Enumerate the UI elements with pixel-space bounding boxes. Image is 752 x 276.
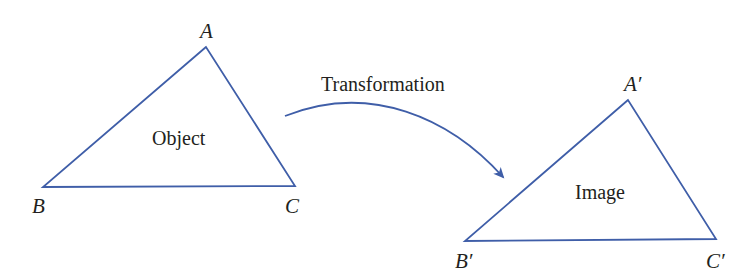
image-label: Image — [575, 181, 625, 204]
transformation-arrow — [285, 103, 503, 177]
image-vertex-a-prime: A′ — [622, 72, 642, 96]
object-vertex-c: C — [285, 194, 300, 218]
image-triangle — [465, 100, 716, 241]
image-vertex-b-prime: B′ — [455, 249, 473, 273]
transformation-label: Transformation — [321, 73, 445, 95]
image-vertex-c-prime: C′ — [706, 249, 725, 273]
object-vertex-b: B — [32, 194, 45, 218]
object-label: Object — [152, 127, 206, 150]
transformation-diagram: A B C Object Transformation A′ B′ C′ Ima… — [0, 0, 752, 276]
object-vertex-a: A — [198, 19, 213, 43]
object-triangle — [43, 47, 295, 187]
